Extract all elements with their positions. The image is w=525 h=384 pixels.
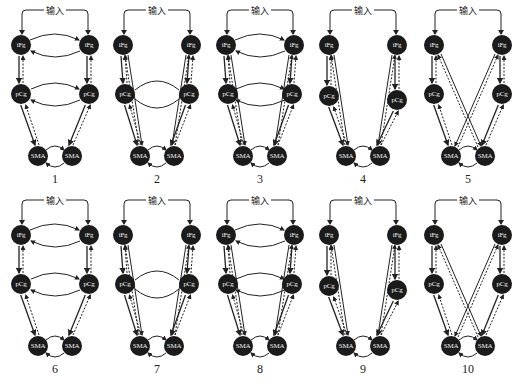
node-ifg-left: iFg [11,35,31,55]
node-ifg-left: iFg [319,225,339,245]
node-ifg-right: iFg [79,35,99,55]
pcg-lateral-arrow [236,100,285,106]
input-line-right [269,10,293,34]
model-panel-10: 输入 iFg iFg pCg pCg SMA SMA 10 [413,190,523,380]
ifg-lateral-arrow [31,241,80,247]
input-label: 输入 [352,196,374,206]
model-panel-4: 输入 iFg iFg pCg pCg SMA SMA 4 [308,0,418,190]
node-pcg-right: pCg [492,274,512,294]
model-panel-1: 输入 iFg iFg pCg pCg SMA SMA 1 [0,0,110,190]
panel-number: 8 [257,362,263,377]
ifg-pcg-arrow [121,56,123,83]
node-pcg-right: pCg [492,84,512,104]
sma-lateral-arrow [251,353,269,357]
node-ifg-right: iFg [79,225,99,245]
input-label: 输入 [44,196,66,206]
pcg-lateral-line [135,271,179,280]
pcg-lateral-arrow [236,290,285,296]
input-label: 输入 [249,196,271,206]
node-pcg-left: pCg [319,276,339,296]
node-sma-left: SMA [336,336,356,356]
node-pcg-right: pCg [387,280,407,300]
sma-lateral-arrow [148,353,166,357]
node-ifg-right: iFg [284,225,304,245]
pcg-lateral-arrow [31,290,80,296]
sma-lateral-arrow [354,336,372,340]
node-ifg-right: iFg [284,35,304,55]
panel-number: 9 [360,362,366,377]
input-line-left [22,10,46,34]
pcg-lateral-arrow [31,83,79,89]
node-sma-right: SMA [370,146,390,166]
node-sma-left: SMA [441,146,461,166]
input-line-left [124,10,148,34]
sma-pcg-arrow [381,301,398,335]
input-line-left [227,10,251,34]
node-ifg-left: iFg [11,225,31,245]
sma-lateral-arrow [251,336,269,340]
panel-number: 3 [257,172,263,187]
pcg-lateral-arrow [236,273,284,279]
ifg-lateral-arrow [235,34,284,40]
sma-pcg-arrow [486,105,503,145]
node-sma-right: SMA [164,146,184,166]
input-line-right [477,200,501,224]
dcm-model-figure: 输入 iFg iFg pCg pCg SMA SMA 1 输入 iFg iFg … [0,0,525,384]
node-ifg-right: iFg [492,35,512,55]
pcg-lateral-line [135,81,179,90]
pcg-sma-arrow [69,295,85,335]
ifg-lateral-arrow [235,224,284,230]
sma-pcg-arrow [73,295,90,335]
panel-number: 6 [52,362,58,377]
node-pcg-right: pCg [79,84,99,104]
input-label: 输入 [44,6,66,16]
ifg-lateral-arrow [30,224,79,230]
node-pcg-left: pCg [218,274,238,294]
node-sma-left: SMA [28,336,48,356]
input-line-left [330,200,354,224]
input-label: 输入 [457,196,479,206]
node-sma-left: SMA [130,336,150,356]
model-panel-6: 输入 iFg iFg pCg pCg SMA SMA 6 [0,190,110,380]
node-sma-right: SMA [62,146,82,166]
input-line-left [227,200,251,224]
node-pcg-right: pCg [387,90,407,110]
node-ifg-left: iFg [319,35,339,55]
sma-lateral-arrow [354,353,372,357]
input-line-right [372,10,396,34]
input-label: 输入 [146,6,168,16]
panel-number: 7 [154,362,160,377]
node-sma-left: SMA [233,146,253,166]
pcg-ifg-arrow [294,56,296,83]
sma-lateral-arrow [459,336,477,340]
node-sma-left: SMA [233,336,253,356]
node-ifg-right: iFg [387,35,407,55]
node-sma-right: SMA [475,336,495,356]
pcg-ifg-arrow [294,246,296,273]
input-label: 输入 [457,6,479,16]
node-ifg-left: iFg [424,225,444,245]
panel-number: 4 [360,172,366,187]
figure-caption [0,377,525,384]
panel-number: 2 [154,172,160,187]
input-label: 输入 [352,6,374,16]
node-sma-right: SMA [267,336,287,356]
node-ifg-left: iFg [424,35,444,55]
sma-lateral-arrow [46,163,64,167]
node-pcg-right: pCg [179,274,199,294]
input-label: 输入 [249,6,271,16]
node-ifg-right: iFg [387,225,407,245]
sma-lateral-arrow [148,336,166,340]
ifg-lateral-arrow [236,51,285,57]
sma-lateral-arrow [459,163,477,167]
node-ifg-right: iFg [181,35,201,55]
node-pcg-left: pCg [424,84,444,104]
node-pcg-left: pCg [424,274,444,294]
sma-lateral-arrow [46,146,64,150]
node-pcg-left: pCg [319,86,339,106]
sma-ifg-cross-arrow [458,245,498,337]
input-line-right [269,200,293,224]
node-sma-left: SMA [336,146,356,166]
node-ifg-left: iFg [216,225,236,245]
pcg-sma-arrow [482,105,498,145]
